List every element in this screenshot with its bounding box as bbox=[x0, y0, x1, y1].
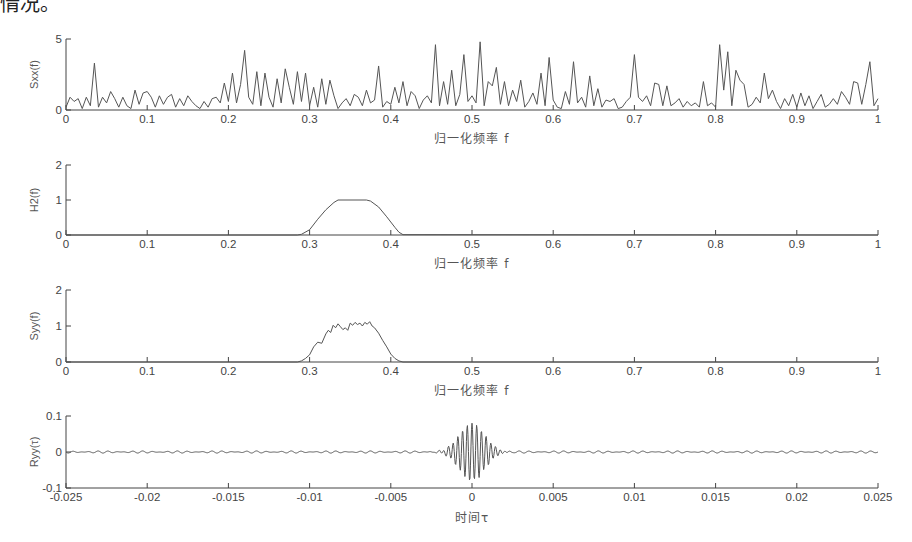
x-tick-label: 0.6 bbox=[545, 113, 561, 125]
x-tick-label: 0.1 bbox=[139, 113, 155, 125]
x-tick-label: 0.1 bbox=[139, 365, 155, 377]
chart-figure: 00.10.20.30.40.50.60.70.80.9105Sxx(f)归一化… bbox=[0, 0, 912, 542]
x-tick-label: 0 bbox=[63, 365, 69, 377]
y-tick-label: 0 bbox=[56, 229, 62, 241]
data-series-syy bbox=[66, 322, 878, 362]
axis-frame bbox=[66, 290, 878, 362]
y-tick-label: 0 bbox=[56, 356, 62, 368]
subplot-sxx: 00.10.20.30.40.50.60.70.80.9105Sxx(f)归一化… bbox=[28, 33, 881, 146]
y-axis-label: H2(f) bbox=[28, 188, 40, 212]
x-tick-label: 1 bbox=[875, 238, 881, 250]
x-tick-label: -0.005 bbox=[374, 491, 407, 503]
x-tick-label: 0.4 bbox=[383, 365, 400, 377]
x-tick-label: 0.7 bbox=[626, 238, 642, 250]
y-tick-label: 5 bbox=[56, 33, 62, 45]
x-tick-label: 0.4 bbox=[383, 238, 400, 250]
x-tick-label: 0.2 bbox=[220, 113, 236, 125]
x-tick-label: 0.9 bbox=[789, 113, 805, 125]
x-axis-label: 归一化频率 f bbox=[434, 383, 509, 398]
x-tick-label: 0.5 bbox=[464, 113, 480, 125]
x-tick-label: 0.02 bbox=[786, 491, 808, 503]
data-series-sxx bbox=[66, 42, 878, 109]
x-tick-label: 0.2 bbox=[220, 238, 236, 250]
x-tick-label: 0.8 bbox=[708, 238, 724, 250]
subplot-ryy: -0.025-0.02-0.015-0.01-0.00500.0050.010.… bbox=[28, 410, 892, 525]
y-tick-label: 0 bbox=[56, 446, 62, 458]
x-tick-label: -0.015 bbox=[212, 491, 245, 503]
y-tick-label: 1 bbox=[56, 194, 62, 206]
y-tick-label: -0.1 bbox=[42, 482, 62, 494]
y-axis-label: Syy(f) bbox=[28, 312, 40, 341]
y-axis-label: Sxx(f) bbox=[28, 60, 40, 89]
x-tick-label: 0.3 bbox=[302, 238, 318, 250]
x-tick-label: -0.02 bbox=[134, 491, 160, 503]
x-tick-label: 0.5 bbox=[464, 365, 480, 377]
x-tick-label: 0.3 bbox=[302, 365, 318, 377]
x-tick-label: -0.01 bbox=[296, 491, 322, 503]
x-tick-label: 0.6 bbox=[545, 365, 561, 377]
subplot-syy: 00.10.20.30.40.50.60.70.80.91012Syy(f)归一… bbox=[28, 284, 881, 398]
x-tick-label: 0 bbox=[63, 238, 69, 250]
x-tick-label: 0.01 bbox=[623, 491, 645, 503]
x-axis-label: 时间τ bbox=[455, 511, 489, 525]
x-tick-label: 0.025 bbox=[864, 491, 893, 503]
x-axis-label: 归一化频率 f bbox=[434, 256, 509, 271]
x-tick-label: 0.5 bbox=[464, 238, 480, 250]
axis-frame bbox=[66, 39, 878, 110]
x-tick-label: 0.4 bbox=[383, 113, 400, 125]
x-tick-label: 0.8 bbox=[708, 365, 724, 377]
subplot-h2: 00.10.20.30.40.50.60.70.80.91012H2(f)归一化… bbox=[28, 159, 881, 271]
x-tick-label: 0.7 bbox=[626, 365, 642, 377]
x-tick-label: 1 bbox=[875, 113, 881, 125]
x-tick-label: 0.015 bbox=[701, 491, 730, 503]
x-tick-label: 0 bbox=[63, 113, 69, 125]
x-tick-label: 0.3 bbox=[302, 113, 318, 125]
x-tick-label: 0.6 bbox=[545, 238, 561, 250]
y-axis-label: Ryy(τ) bbox=[28, 437, 40, 468]
x-axis-label: 归一化频率 f bbox=[434, 131, 509, 146]
y-tick-label: 2 bbox=[56, 159, 62, 171]
x-tick-label: 0.9 bbox=[789, 365, 805, 377]
y-tick-label: 0.1 bbox=[46, 410, 62, 422]
x-tick-label: 0.7 bbox=[626, 113, 642, 125]
axis-frame bbox=[66, 165, 878, 235]
data-series-h2 bbox=[66, 200, 878, 235]
x-tick-label: 0.9 bbox=[789, 238, 805, 250]
y-tick-label: 1 bbox=[56, 320, 62, 332]
y-tick-label: 2 bbox=[56, 284, 62, 296]
y-tick-label: 0 bbox=[56, 104, 62, 116]
x-tick-label: 1 bbox=[875, 365, 881, 377]
x-tick-label: 0.1 bbox=[139, 238, 155, 250]
x-tick-label: 0 bbox=[469, 491, 475, 503]
x-tick-label: 0.2 bbox=[220, 365, 236, 377]
x-tick-label: 0.8 bbox=[708, 113, 724, 125]
data-series-ryy bbox=[66, 423, 878, 480]
x-tick-label: 0.005 bbox=[539, 491, 568, 503]
